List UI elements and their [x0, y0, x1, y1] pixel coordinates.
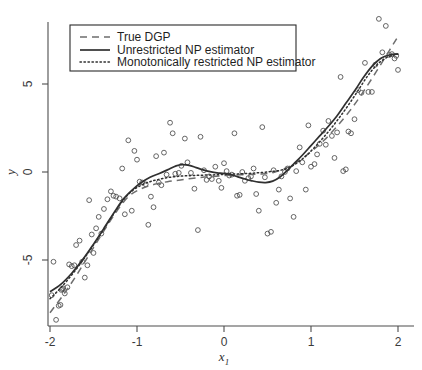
x-tick-label: 2 — [395, 335, 402, 349]
scatter-point — [94, 226, 99, 231]
scatter-point — [54, 317, 59, 322]
scatter-point — [274, 200, 279, 205]
scatter-point — [352, 117, 357, 122]
scatter-point — [326, 119, 331, 124]
scatter-point — [222, 161, 227, 166]
curve-monotone — [50, 54, 398, 299]
scatter-point — [105, 197, 110, 202]
scatter-point — [51, 259, 56, 264]
curves-layer — [50, 36, 398, 312]
scatter-point — [129, 208, 134, 213]
y-axis-title: y — [3, 169, 18, 177]
scatter-point — [294, 169, 299, 174]
scatter-point — [168, 120, 173, 125]
scatter-point — [251, 166, 256, 171]
x-tick-label: 1 — [308, 335, 315, 349]
scatter-point — [303, 187, 308, 192]
scatter-point — [77, 238, 82, 243]
scatter-point — [164, 172, 169, 177]
x-axis-ticks: -2-1012 — [45, 326, 402, 349]
scatter-point — [120, 166, 125, 171]
scatter-point — [315, 152, 320, 157]
curve-unrestricted — [50, 54, 398, 292]
scatter-point — [192, 186, 197, 191]
scatter-point — [198, 134, 203, 139]
y-tick-label: 5 — [21, 80, 35, 87]
legend-label: Monotonically restricted NP estimator — [117, 55, 316, 69]
scatter-point — [335, 130, 340, 135]
scatter-point — [370, 90, 375, 95]
scatter-point — [102, 207, 107, 212]
scatter-point — [260, 125, 265, 130]
scatter-point — [363, 60, 368, 65]
scatter-point — [149, 194, 154, 199]
scatter-point — [232, 131, 237, 136]
scatter-point — [189, 170, 194, 175]
scatter-point — [135, 157, 140, 162]
scatter-point — [196, 228, 201, 233]
scatter-point — [329, 134, 334, 139]
scatter-point — [376, 16, 381, 21]
x-tick-label: -1 — [132, 335, 143, 349]
scatter-point — [122, 212, 127, 217]
curve-true-dgp — [50, 36, 398, 312]
scatter-point — [288, 196, 293, 201]
scatter-point — [170, 131, 175, 136]
legend-label: True DGP — [117, 30, 171, 44]
scatter-point — [338, 75, 343, 80]
y-tick-label: 0 — [21, 168, 35, 175]
scatter-point — [182, 136, 187, 141]
scatter-point — [109, 189, 114, 194]
scatter-point — [162, 150, 167, 155]
scatter-point — [306, 123, 311, 128]
scatter-point — [297, 145, 302, 150]
scatter-point — [396, 68, 401, 73]
scatter-point — [276, 187, 281, 192]
scatter-point — [216, 178, 221, 183]
scatter-point — [151, 205, 156, 210]
scatter-point — [89, 232, 94, 237]
scatter-point — [256, 208, 261, 213]
chart-figure: -2-1012 50-5 x1 y True DGPUnrestricted N… — [0, 0, 422, 370]
scatter-point — [312, 162, 317, 167]
y-tick-label: -5 — [21, 254, 35, 265]
scatter-point — [323, 142, 328, 147]
x-tick-label: -2 — [45, 335, 56, 349]
y-axis-ticks: 50-5 — [21, 80, 48, 265]
scatter-plot-canvas: -2-1012 50-5 x1 y True DGPUnrestricted N… — [0, 0, 422, 370]
scatter-point — [146, 222, 151, 227]
scatter-point — [96, 214, 101, 219]
scatter-point — [126, 138, 131, 143]
scatter-point — [154, 154, 159, 159]
scatter-point — [58, 302, 63, 307]
x-axis-title: x1 — [218, 349, 229, 367]
x-tick-label: 0 — [221, 335, 228, 349]
scatter-point — [254, 192, 259, 197]
scatter-point — [383, 24, 388, 29]
scatter-point — [82, 275, 87, 280]
scatter-point — [213, 164, 218, 169]
chart-legend[interactable]: True DGPUnrestricted NP estimatorMonoton… — [70, 25, 316, 71]
scatter-point — [87, 198, 92, 203]
scatter-point — [332, 156, 337, 161]
scatter-point — [380, 50, 385, 55]
scatter-point — [85, 263, 90, 268]
scatter-point — [219, 185, 224, 190]
scatter-point — [262, 175, 267, 180]
scatter-point — [74, 243, 79, 248]
scatter-point — [132, 148, 137, 153]
scatter-point — [291, 214, 296, 219]
